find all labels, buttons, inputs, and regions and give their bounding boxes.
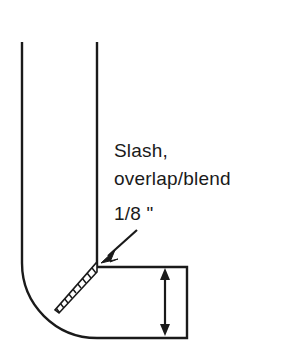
callout-label-line1: Slash,	[114, 140, 168, 161]
callout-label-line2: overlap/blend	[114, 168, 231, 189]
dimension-label: 1/8 "	[114, 203, 153, 224]
diagram-canvas: Slash, overlap/blend 1/8 "	[0, 0, 303, 362]
technical-diagram: Slash, overlap/blend 1/8 "	[0, 0, 303, 362]
